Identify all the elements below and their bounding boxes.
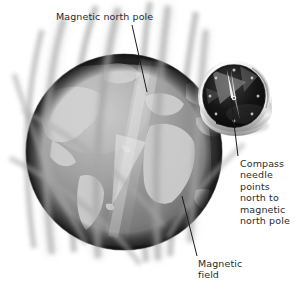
- leader-lines: [132, 25, 238, 256]
- field-lines-back: [27, 2, 196, 262]
- label-magnetic-north-pole: Magnetic north pole: [56, 11, 153, 22]
- leader-compass-needle: [231, 99, 238, 156]
- diagram-artwork: [0, 0, 303, 293]
- field-lines-front: [10, 6, 244, 264]
- label-compass-needle: Compass needle points north to magnetic …: [240, 158, 302, 226]
- label-magnetic-field: Magnetic field: [198, 258, 260, 281]
- compass: [198, 60, 272, 136]
- compass-ticks: [209, 69, 260, 123]
- leader-magnetic-north-pole: [132, 25, 147, 92]
- magnetic-field-figure: Magnetic north pole Compass needle point…: [0, 0, 303, 293]
- compass-needle: [227, 70, 240, 120]
- leader-magnetic-field: [182, 196, 197, 256]
- field-lines-haze: [46, 6, 206, 260]
- continents: [41, 63, 222, 230]
- magnetic-axis-beam: [104, 58, 160, 240]
- earth-globe: [26, 40, 226, 252]
